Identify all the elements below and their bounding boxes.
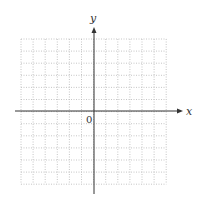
x-axis-arrow-icon (177, 109, 183, 114)
origin-label: 0 (86, 114, 92, 125)
y-axis-arrow-icon (92, 27, 97, 33)
axes (15, 27, 183, 194)
x-axis-label: x (186, 105, 193, 118)
y-axis-label: y (89, 12, 97, 25)
coordinate-plane: x y 0 (0, 0, 200, 201)
